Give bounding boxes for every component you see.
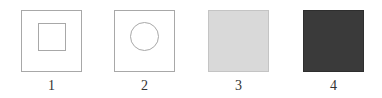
inner-square-icon (38, 23, 66, 51)
panel-4-label: 4 (303, 78, 364, 94)
panel-3 (208, 10, 269, 72)
inner-circle-icon (130, 22, 159, 51)
panel-1 (21, 10, 82, 72)
panel-4 (303, 10, 364, 72)
panel-3-label: 3 (208, 78, 269, 94)
panel-1-label: 1 (21, 78, 82, 94)
panel-2-label: 2 (114, 78, 175, 94)
panel-2 (114, 10, 175, 72)
